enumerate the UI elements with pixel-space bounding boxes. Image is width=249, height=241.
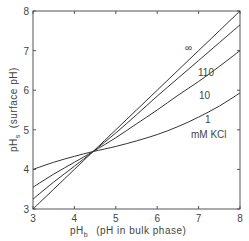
curve-label-10: 10 (199, 90, 211, 101)
y-tick-label: 7 (23, 46, 29, 57)
curve-label-1: 1 (205, 114, 211, 125)
y-tick-label: 6 (23, 85, 29, 96)
curve-labels: ∞110101 (185, 42, 214, 125)
curve-label-110: 110 (198, 67, 214, 78)
unit-annotation: mM KCl (191, 129, 227, 140)
x-tick-label: 6 (154, 213, 160, 224)
curve-label-infinity: ∞ (185, 42, 192, 53)
surface-ph-chart: 345678345678 ∞110101 mM KCl pHb(pH in bu… (0, 0, 249, 241)
curve-infinity (33, 11, 240, 209)
y-tick-label: 3 (23, 204, 29, 215)
x-tick-label: 4 (72, 213, 78, 224)
y-tick-label: 5 (23, 125, 29, 136)
x-tick-label: 7 (196, 213, 202, 224)
x-tick-label: 5 (113, 213, 119, 224)
y-tick-label: 4 (23, 164, 29, 175)
x-tick-label: 8 (237, 213, 243, 224)
y-tick-label: 8 (23, 6, 29, 17)
data-curves (33, 11, 240, 209)
x-tick-label: 3 (30, 213, 36, 224)
x-axis-title: pHb(pH in bulk phase) (70, 225, 186, 238)
y-axis-title: pHs(surface pH) (8, 67, 21, 152)
